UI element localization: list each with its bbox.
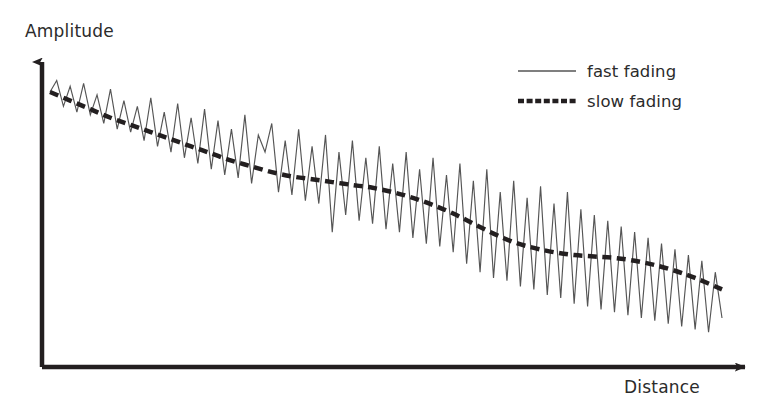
- fast-fading-curve: [50, 81, 722, 333]
- legend-label-fast-fading: fast fading: [587, 62, 676, 81]
- amplitude-axis-label: Amplitude: [25, 21, 114, 41]
- legend-group: [518, 71, 576, 101]
- fading-diagram: Amplitude Distance fast fading slow fadi…: [0, 0, 779, 412]
- distance-axis-label: Distance: [624, 377, 700, 397]
- slow-fading-curve: [50, 92, 722, 289]
- legend-label-slow-fading: slow fading: [587, 92, 682, 111]
